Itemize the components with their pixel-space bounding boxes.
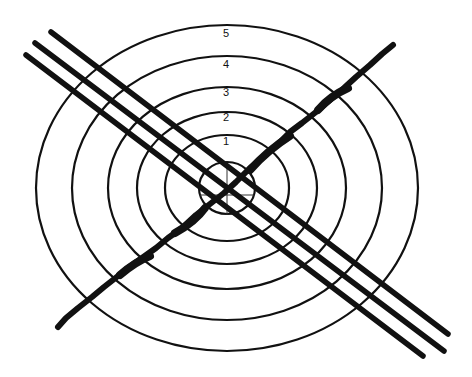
target-diagram: 5 4 3 2 1 (0, 0, 472, 377)
ring-labels: 5 4 3 2 1 (223, 27, 229, 147)
ring-label-3: 3 (223, 86, 229, 98)
straight-line-1 (51, 32, 448, 334)
ring-label-5: 5 (223, 27, 229, 39)
parallel-lines (26, 32, 448, 356)
straight-line-3 (26, 55, 423, 356)
ring-label-2: 2 (223, 111, 229, 123)
ring-label-1: 1 (223, 135, 229, 147)
ring-label-4: 4 (223, 58, 229, 70)
